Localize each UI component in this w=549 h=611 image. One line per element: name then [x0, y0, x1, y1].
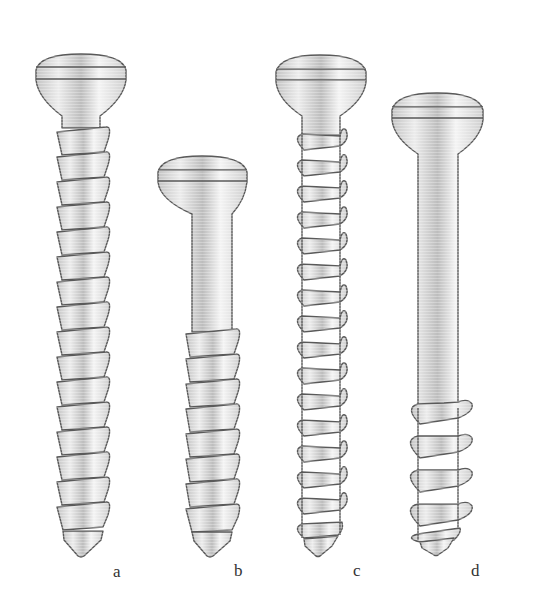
screw-d — [392, 93, 483, 556]
screw-figure — [0, 0, 549, 611]
screw-a — [36, 54, 126, 557]
label-b: b — [234, 562, 243, 579]
screw-b — [158, 156, 247, 557]
label-c: c — [353, 562, 361, 579]
screw-c — [276, 55, 366, 557]
label-d: d — [471, 562, 480, 579]
label-a: a — [113, 563, 121, 580]
